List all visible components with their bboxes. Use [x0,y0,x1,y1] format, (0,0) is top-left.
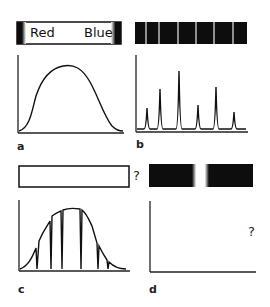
graph-c [19,200,130,271]
spectrum-bar-d [149,164,253,187]
panel-d [149,164,256,272]
panel-label-c: c [18,283,25,296]
spectrum-bar-c [19,166,129,187]
panel-c [19,166,130,271]
figure-canvas [0,0,270,307]
panel-b [135,22,248,132]
panel-label-d: d [149,283,157,296]
panel-label-b: b [136,138,144,151]
graph-a [18,55,124,133]
graph-d [150,201,256,272]
graph-b [136,55,248,132]
question-mark-d: ? [248,224,255,239]
spectrum-bar-b [135,22,247,44]
panel-label-a: a [17,140,24,153]
question-mark-c: ? [133,168,140,183]
bar-a-right-text: Blue [84,26,113,40]
bar-a-left-text: Red [30,26,55,40]
